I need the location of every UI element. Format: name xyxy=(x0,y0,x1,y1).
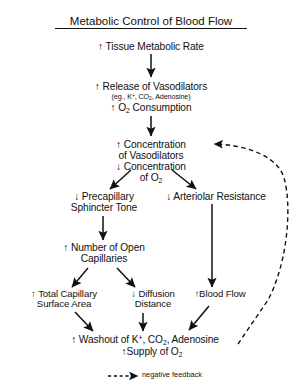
node-arteriolar-resistance: ↓ Arteriolar Resistance xyxy=(153,191,279,202)
supply-o2-subscript: 2 xyxy=(179,351,183,358)
diffusion-line2: Distance xyxy=(116,299,190,309)
supply-prefix: ↑Supply of O xyxy=(122,346,179,357)
page-title: Metabolic Control of Blood Flow xyxy=(55,15,247,29)
node-vasodilator-examples: (eg., K+, CO2, Adenosine) xyxy=(71,93,231,101)
precapillary-line2: Sphincter Tone xyxy=(48,202,160,213)
o2-consumption-suffix: Consumption xyxy=(130,102,192,113)
arrow-surfacearea-to-washout xyxy=(75,312,93,331)
concentration-o2-subscript: 2 xyxy=(159,177,163,184)
arrow-bloodflow-to-washout xyxy=(189,306,209,330)
arrow-negative-feedback xyxy=(215,144,288,344)
open-capillaries-line1: ↑ Number of Open xyxy=(44,242,164,253)
washout-suffix: , Adenosine xyxy=(167,334,219,345)
node-blood-flow: ↑Blood Flow xyxy=(182,289,258,299)
node-concentration-vasodilators: ↑ Concentration of Vasodilators xyxy=(97,139,205,161)
node-open-capillaries: ↑ Number of Open Capillaries xyxy=(44,242,164,264)
total-capillary-line2: Surface Area xyxy=(12,299,116,309)
washout-mid: , CO xyxy=(142,334,163,345)
node-concentration-o2: ↓ Concentration of O2 xyxy=(97,161,205,184)
node-o2-consumption: ↑ O2 Consumption xyxy=(81,102,221,114)
precapillary-line1: ↓ Precapillary xyxy=(48,191,160,202)
arrow-capillaries-to-diffusion xyxy=(117,268,135,287)
concentration-vasodilators-line1: ↑ Concentration xyxy=(97,139,205,150)
concentration-o2-line2: of O2 xyxy=(97,172,205,184)
concentration-o2-prefix: of O xyxy=(140,172,159,183)
vasodilator-examples-part2: , CO xyxy=(135,92,149,101)
node-washout: ↑ Washout of K+, CO2, Adenosine xyxy=(49,334,241,346)
washout-prefix: ↑ Washout of K xyxy=(71,334,138,345)
node-tissue-metabolic-rate: ↑ Tissue Metabolic Rate xyxy=(76,41,226,52)
diagram-canvas: Metabolic Control of Blood Flow xyxy=(0,0,301,389)
vasodilator-examples-part1: (eg., K xyxy=(111,92,131,101)
o2-consumption-prefix: ↑ O xyxy=(111,102,127,113)
concentration-vasodilators-line2: of Vasodilators xyxy=(97,150,205,161)
open-capillaries-line2: Capillaries xyxy=(44,253,164,264)
concentration-o2-line1: ↓ Concentration xyxy=(97,161,205,172)
node-total-capillary-surface-area: ↑ Total Capillary Surface Area xyxy=(12,289,116,310)
node-precapillary-sphincter-tone: ↓ Precapillary Sphincter Tone xyxy=(48,191,160,213)
node-release-of-vasodilators: ↑ Release of Vasodilators xyxy=(61,81,241,92)
arrow-capillaries-to-surfacearea xyxy=(72,268,88,287)
node-supply-of-o2: ↑Supply of O2 xyxy=(92,346,212,358)
node-diffusion-distance: ↓ Diffusion Distance xyxy=(116,289,190,310)
legend-label: negative feedback xyxy=(142,371,238,379)
vasodilator-examples-part3: , Adenosine) xyxy=(152,92,191,101)
